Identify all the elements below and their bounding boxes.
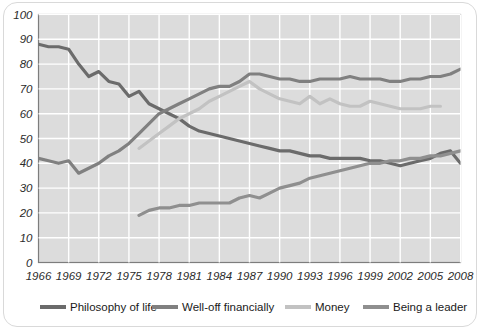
x-tick-label: 2008 (447, 270, 474, 282)
y-tick-label: 20 (19, 207, 33, 219)
legend-item-money[interactable]: Money (285, 301, 350, 313)
x-tick-label: 1990 (267, 270, 293, 282)
x-tick-label: 2002 (386, 270, 413, 282)
chart-legend: Philosophy of lifeWell-off financiallyMo… (40, 301, 467, 313)
x-tick-label: 1984 (207, 270, 233, 282)
x-tick-label: 1972 (86, 270, 112, 282)
x-tick-label: 1975 (116, 270, 142, 282)
chart-figure: 0102030405060708090100 19661969197219751… (0, 0, 482, 331)
legend-label-money: Money (315, 301, 350, 313)
x-tick-label: 2005 (417, 270, 444, 282)
x-tick-label: 1981 (176, 270, 202, 282)
x-tick-label: 1987 (237, 270, 263, 282)
x-tick-label: 1969 (56, 270, 82, 282)
legend-item-well-off-financially[interactable]: Well-off financially (152, 301, 275, 313)
y-tick-label: 0 (26, 257, 33, 269)
x-tick-label: 1996 (327, 270, 353, 282)
y-tick-label: 70 (20, 83, 33, 95)
y-tick-label: 50 (20, 133, 33, 145)
y-tick-label: 100 (13, 9, 33, 21)
x-tick-label: 1978 (146, 270, 172, 282)
x-tick-label: 1966 (26, 270, 52, 282)
y-tick-label: 40 (20, 157, 33, 169)
y-tick-label: 60 (20, 108, 33, 120)
legend-label-well-off-financially: Well-off financially (182, 301, 275, 313)
legend-item-being-a-leader[interactable]: Being a leader (363, 301, 467, 313)
y-tick-label: 10 (20, 232, 33, 244)
legend-item-philosophy-of-life[interactable]: Philosophy of life (40, 301, 157, 313)
y-tick-label: 90 (20, 33, 33, 45)
y-tick-label: 30 (20, 182, 33, 194)
x-tick-label: 1999 (357, 270, 383, 282)
y-axis-tick-labels: 0102030405060708090100 (13, 9, 33, 269)
legend-label-philosophy-of-life: Philosophy of life (70, 301, 157, 313)
y-tick-label: 80 (20, 58, 33, 70)
line-chart: 0102030405060708090100 19661969197219751… (0, 0, 482, 331)
x-tick-label: 1993 (297, 270, 323, 282)
legend-label-being-a-leader: Being a leader (393, 301, 467, 313)
x-axis-tick-labels: 1966196919721975197819811984198719901993… (26, 270, 474, 282)
